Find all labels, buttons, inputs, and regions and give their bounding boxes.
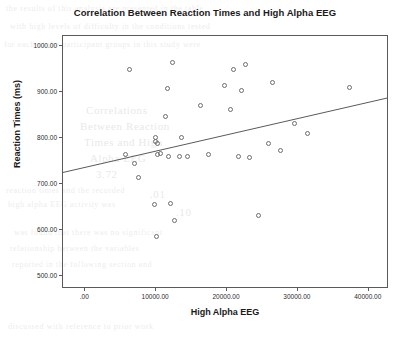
scatter-plot-figure: Correlation Between Reaction Times and H… xyxy=(0,0,410,337)
data-point xyxy=(266,141,271,146)
x-axis-title: High Alpha EEG xyxy=(62,307,388,317)
data-point xyxy=(278,148,283,153)
plot-area: 500.00600.00700.00800.00900.001000.00 .0… xyxy=(62,35,388,288)
data-point xyxy=(154,234,159,239)
data-point xyxy=(185,154,190,159)
data-point xyxy=(168,201,173,206)
data-point xyxy=(228,107,233,112)
x-tick-label: 10000.00 xyxy=(142,293,169,300)
data-point xyxy=(127,67,132,72)
x-tick-mark xyxy=(226,287,227,291)
data-point xyxy=(347,85,352,90)
data-point xyxy=(231,67,236,72)
data-point xyxy=(247,155,252,160)
y-tick-label: 600.00 xyxy=(37,226,57,233)
data-point xyxy=(222,83,227,88)
y-tick-label: 1000.00 xyxy=(34,42,58,49)
x-tick-mark xyxy=(84,287,85,291)
x-tick-mark xyxy=(155,287,156,291)
data-point xyxy=(256,213,261,218)
y-tick-label: 500.00 xyxy=(37,272,57,279)
data-point xyxy=(206,152,211,157)
y-tick-label: 800.00 xyxy=(37,134,57,141)
y-tick-mark xyxy=(59,229,63,230)
data-point xyxy=(292,121,297,126)
y-axis-title: Reaction Times (ms) xyxy=(12,49,22,199)
x-tick-label: 30000.00 xyxy=(283,293,310,300)
data-point xyxy=(132,161,137,166)
x-tick-label: .00 xyxy=(80,293,89,300)
y-tick-mark xyxy=(59,275,63,276)
data-point xyxy=(158,151,163,156)
data-point xyxy=(270,80,275,85)
data-points-layer xyxy=(63,36,387,287)
data-point xyxy=(123,152,128,157)
data-point xyxy=(177,154,182,159)
y-tick-label: 700.00 xyxy=(37,180,57,187)
data-point xyxy=(163,114,168,119)
y-tick-label: 900.00 xyxy=(37,88,57,95)
x-tick-mark xyxy=(297,287,298,291)
data-point xyxy=(243,62,248,67)
data-point xyxy=(152,202,157,207)
data-point xyxy=(179,135,184,140)
y-tick-mark xyxy=(59,45,63,46)
x-tick-label: 40000.00 xyxy=(354,293,381,300)
data-point xyxy=(170,60,175,65)
x-tick-mark xyxy=(368,287,369,291)
x-tick-label: 20000.00 xyxy=(212,293,239,300)
chart-title: Correlation Between Reaction Times and H… xyxy=(0,7,410,18)
data-point xyxy=(198,103,203,108)
data-point xyxy=(305,131,310,136)
data-point xyxy=(236,154,241,159)
data-point xyxy=(166,154,171,159)
data-point xyxy=(136,175,141,180)
y-tick-mark xyxy=(59,91,63,92)
y-tick-mark xyxy=(59,137,63,138)
data-point xyxy=(155,141,160,146)
data-point xyxy=(172,218,177,223)
data-point xyxy=(239,88,244,93)
data-point xyxy=(165,86,170,91)
y-tick-mark xyxy=(59,183,63,184)
